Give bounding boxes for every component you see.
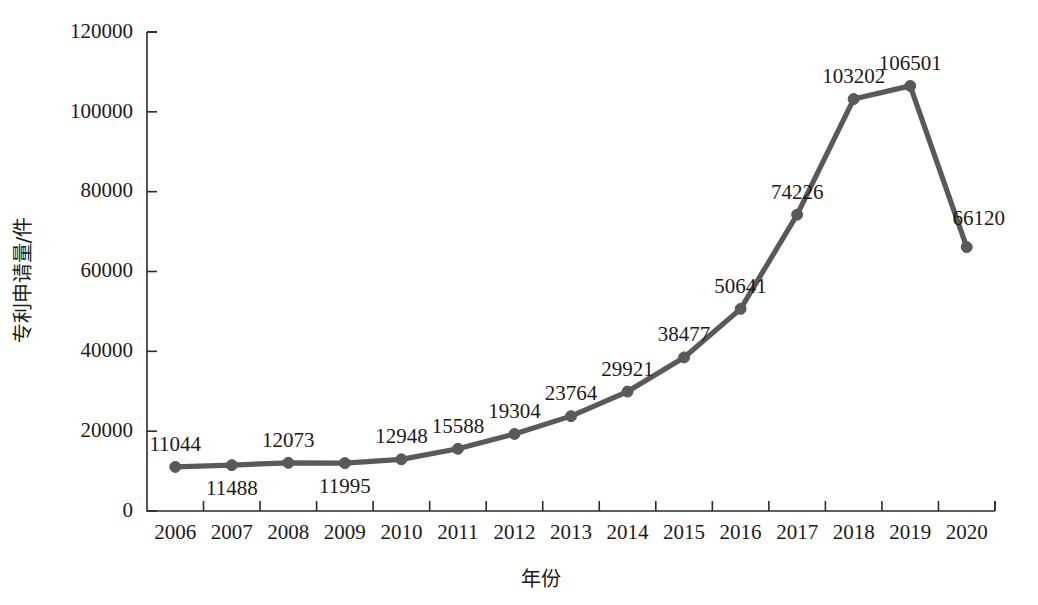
y-tick-label: 40000	[81, 338, 134, 362]
x-tick-label: 2006	[154, 520, 196, 544]
data-point-label: 23764	[545, 381, 598, 405]
data-point-marker	[396, 454, 407, 465]
data-point-label: 74226	[771, 180, 824, 204]
data-point-marker	[905, 80, 916, 91]
x-tick-label: 2018	[833, 520, 875, 544]
data-point-marker	[735, 303, 746, 314]
data-point-marker	[848, 94, 859, 105]
data-point-label: 12073	[262, 428, 315, 452]
x-tick-label: 2019	[889, 520, 931, 544]
y-tick-label: 120000	[70, 19, 133, 43]
data-point-label: 38477	[658, 322, 711, 346]
patent-applications-line	[175, 86, 966, 467]
data-point-label: 12948	[375, 424, 428, 448]
line-chart-plot: 1104411488120731199512948155881930423764…	[0, 0, 1038, 605]
x-tick-label: 2009	[324, 520, 366, 544]
data-point-label: 50641	[714, 274, 767, 298]
y-tick-label: 60000	[81, 258, 134, 282]
data-point-marker	[961, 242, 972, 253]
y-tick-label: 0	[123, 498, 134, 522]
x-tick-label: 2011	[437, 520, 478, 544]
data-point-marker	[566, 411, 577, 422]
data-point-marker	[452, 443, 463, 454]
data-point-label: 106501	[879, 51, 942, 75]
data-point-marker	[339, 458, 350, 469]
x-tick-label: 2016	[720, 520, 762, 544]
x-tick-label: 2008	[267, 520, 309, 544]
y-axis-tick-labels: 020000400006000080000100000120000	[70, 19, 133, 522]
x-tick-label: 2010	[380, 520, 422, 544]
y-tick-label: 80000	[81, 178, 134, 202]
x-tick-label: 2012	[493, 520, 535, 544]
x-axis-tick-labels: 2006200720082009201020112012201320142015…	[154, 520, 987, 544]
x-tick-label: 2013	[550, 520, 592, 544]
x-tick-label: 2017	[776, 520, 818, 544]
x-tick-label: 2020	[946, 520, 988, 544]
data-point-marker	[622, 386, 633, 397]
y-tick-label: 100000	[70, 99, 133, 123]
data-point-marker	[283, 457, 294, 468]
x-tick-label: 2014	[607, 520, 650, 544]
data-point-label: 103202	[822, 64, 885, 88]
data-point-label: 11044	[149, 432, 201, 456]
data-point-label: 19304	[488, 399, 541, 423]
data-point-marker	[509, 428, 520, 439]
data-point-labels: 1104411488120731199512948155881930423764…	[149, 51, 1005, 500]
data-point-label: 11995	[319, 474, 371, 498]
x-axis-title: 年份	[521, 567, 561, 591]
y-tick-label: 20000	[81, 418, 134, 442]
data-point-label: 15588	[432, 414, 485, 438]
x-axis-tick-group	[204, 501, 995, 511]
data-point-marker	[226, 460, 237, 471]
data-point-label: 66120	[952, 206, 1005, 230]
x-tick-label: 2007	[211, 520, 253, 544]
data-point-markers	[170, 80, 972, 472]
data-point-label: 29921	[601, 357, 654, 381]
data-point-marker	[170, 461, 181, 472]
x-tick-label: 2015	[663, 520, 705, 544]
chart-container: 1104411488120731199512948155881930423764…	[0, 0, 1038, 605]
data-point-label: 11488	[206, 476, 258, 500]
data-point-marker	[679, 352, 690, 363]
data-point-marker	[792, 209, 803, 220]
y-axis-title: 专利申请量/件	[11, 217, 35, 344]
